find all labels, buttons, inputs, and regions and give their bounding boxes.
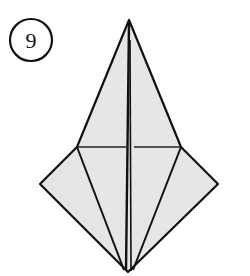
step-number: 9	[26, 28, 37, 53]
center-line-right	[130, 40, 131, 271]
origami-diagram: 9	[0, 0, 250, 276]
folded-paper-shape	[40, 20, 218, 272]
step-badge: 9	[10, 19, 52, 61]
